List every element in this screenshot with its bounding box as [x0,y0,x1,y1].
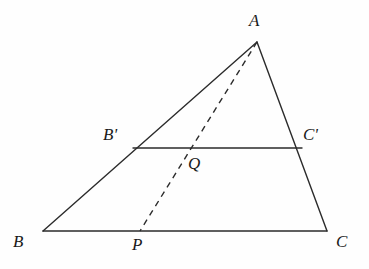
geometry-figure: A B C B' C' P Q [0,0,369,269]
vertex-label-q: Q [188,155,200,172]
segment-side-ab [43,42,257,231]
vertex-label-c-prime: C' [303,126,318,143]
vertex-label-p: P [132,236,142,253]
vertex-label-c: C [336,233,347,250]
vertex-label-b-prime: B' [103,126,117,143]
vertex-label-a: A [249,12,259,29]
segment-cevian-ap [140,42,257,231]
vertex-label-b: B [13,233,23,250]
